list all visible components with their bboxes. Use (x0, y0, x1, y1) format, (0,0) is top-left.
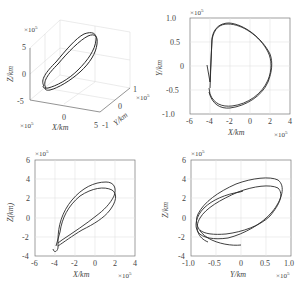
svg-text:4: 4 (182, 175, 186, 184)
svg-text:-6: -6 (31, 259, 38, 268)
y-tick-neg1: -1 (102, 121, 109, 130)
y-multiplier: ×105 (191, 149, 205, 158)
plot-area (190, 18, 290, 114)
plot-area (187, 160, 291, 256)
y-multiplier: ×105 (190, 8, 204, 17)
svg-text:2: 2 (113, 259, 117, 268)
y-ticks: 6 4 2 0 -2 -4 (22, 156, 30, 261)
plot-3d-xyz: 5 0 -5 ×105 Z/km 0 5 ×105 X/km -1 0 1 ×1… (0, 0, 152, 140)
svg-text:-6: -6 (186, 117, 193, 126)
svg-text:6: 6 (26, 156, 30, 165)
svg-text:0: 0 (180, 62, 184, 71)
y-multiplier: ×105 (35, 149, 49, 158)
y-axis-label: Y/km (112, 110, 130, 127)
y-tick-1: 1 (133, 85, 137, 94)
y-ticks: 6 4 2 0 -2 -4 (178, 156, 186, 261)
x-ticks: -6 -4 -2 0 2 4 (186, 117, 292, 126)
svg-text:-1.0: -1.0 (182, 259, 195, 268)
x-ticks: -6 -4 -2 0 2 4 (31, 259, 137, 268)
x-axis-label: Y/km (230, 270, 246, 279)
x-multiplier: ×105 (274, 130, 288, 139)
svg-text:0.5: 0.5 (260, 259, 270, 268)
x-axis-label: X/km (51, 123, 69, 132)
svg-text:0: 0 (239, 259, 243, 268)
grid-3d (30, 20, 130, 104)
svg-text:2: 2 (182, 194, 186, 203)
svg-text:-2: -2 (178, 233, 185, 242)
svg-text:1.0: 1.0 (284, 259, 294, 268)
x-tick-5: 5 (94, 121, 98, 130)
svg-text:-0.5: -0.5 (166, 86, 179, 95)
plot-xz: 6 4 2 0 -2 -4 -6 -4 -2 0 2 4 ×105 ×105 X… (0, 140, 152, 280)
z-tick-0: 0 (22, 70, 26, 79)
y-axis-label: Z(km) (6, 203, 15, 222)
svg-text:2: 2 (268, 117, 272, 126)
z-tick-neg5: -5 (17, 97, 24, 106)
svg-text:4: 4 (26, 175, 30, 184)
svg-text:-4: -4 (206, 117, 213, 126)
x-tick-0: 0 (62, 113, 66, 122)
x-multiplier: ×105 (20, 121, 34, 130)
svg-text:0.5: 0.5 (170, 38, 180, 47)
svg-text:-2: -2 (226, 117, 233, 126)
y-ticks: 1.0 0.5 0 -0.5 -1.0 (162, 14, 184, 119)
svg-text:0: 0 (93, 259, 97, 268)
svg-text:0: 0 (182, 214, 186, 223)
x-axis-label: X/km (227, 128, 245, 137)
svg-text:0: 0 (248, 117, 252, 126)
y-axis-label: Y/km (155, 60, 164, 76)
svg-text:1.0: 1.0 (166, 14, 176, 23)
z-multiplier: ×105 (24, 25, 38, 34)
y-tick-0: 0 (118, 102, 122, 111)
svg-text:2: 2 (26, 194, 30, 203)
svg-text:-2: -2 (22, 233, 29, 242)
z-tick-5: 5 (22, 43, 26, 52)
x-axis-label: X/km (72, 270, 90, 279)
x-multiplier: ×105 (118, 271, 132, 280)
svg-text:4: 4 (288, 117, 292, 126)
svg-text:-1.0: -1.0 (162, 110, 175, 119)
svg-text:-2: -2 (71, 259, 78, 268)
svg-text:4: 4 (133, 259, 137, 268)
y-multiplier: ×105 (136, 93, 150, 102)
svg-text:-4: -4 (22, 252, 29, 261)
svg-text:0: 0 (26, 214, 30, 223)
z-axis-label: Z/km (6, 66, 15, 82)
plot-xy: 1.0 0.5 0 -0.5 -1.0 -6 -4 -2 0 2 4 ×105 … (152, 0, 305, 140)
y-axis-label: Z/km (161, 202, 170, 218)
x-ticks: -1.0 -0.5 0 0.5 1.0 (182, 259, 294, 268)
trajectory-3d (43, 33, 97, 91)
svg-text:-4: -4 (51, 259, 58, 268)
plot-area (35, 160, 135, 256)
svg-text:6: 6 (182, 156, 186, 165)
x-multiplier: ×105 (276, 271, 290, 280)
plot-yz: 6 4 2 0 -2 -4 -1.0 -0.5 0 0.5 1.0 ×105 ×… (152, 140, 305, 280)
svg-text:-0.5: -0.5 (208, 259, 221, 268)
